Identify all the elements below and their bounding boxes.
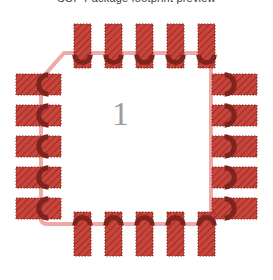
- pad-bottom-4[interactable]: [167, 212, 184, 256]
- pad-top-3[interactable]: [136, 24, 153, 68]
- pad-left-4[interactable]: [16, 167, 61, 188]
- pad-right-4[interactable]: [212, 167, 257, 188]
- pad-top-2[interactable]: [105, 24, 122, 68]
- pad-bottom-1[interactable]: [74, 212, 91, 256]
- footprint-drawing: [0, 0, 273, 280]
- pad-top-4[interactable]: [167, 24, 184, 68]
- pad-left-1[interactable]: [16, 74, 61, 95]
- pad-bottom-3[interactable]: [136, 212, 153, 256]
- courtyard-outline: [41, 53, 211, 224]
- pad-right-1[interactable]: [212, 74, 257, 95]
- pad-right-3[interactable]: [212, 136, 257, 157]
- pad-top-5[interactable]: [198, 24, 215, 68]
- footprint-preview-canvas[interactable]: SOP Package footprint preview 1: [0, 0, 273, 280]
- pad-left-3[interactable]: [16, 136, 61, 157]
- courtyard-path: [41, 53, 211, 224]
- pad-right-5[interactable]: [212, 198, 257, 219]
- reference-designator-label: 1: [112, 97, 129, 131]
- pad-layer: [16, 24, 257, 256]
- pad-bottom-2[interactable]: [105, 212, 122, 256]
- pad-top-1[interactable]: [74, 24, 91, 68]
- pad-right-2[interactable]: [212, 105, 257, 126]
- pad-left-5[interactable]: [16, 198, 61, 219]
- pad-left-2[interactable]: [16, 105, 61, 126]
- pad-bottom-5[interactable]: [198, 212, 215, 256]
